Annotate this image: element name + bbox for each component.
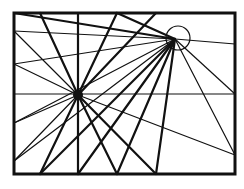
left-point-ray: [78, 95, 235, 155]
left-point-ray: [78, 95, 156, 174]
left-point-ray: [14, 95, 78, 123]
perspective-line-diagram: [0, 0, 244, 189]
left-vanishing-point-dot: [73, 90, 83, 100]
right-point-ray: [175, 39, 235, 94]
left-point-ray: [14, 95, 78, 161]
left-point-ray: [40, 13, 78, 95]
right-point-ray: [14, 39, 175, 161]
left-point-ray: [14, 64, 78, 95]
right-point-ray: [175, 39, 235, 155]
right-point-ray: [175, 39, 235, 44]
left-point-ray: [78, 95, 117, 174]
